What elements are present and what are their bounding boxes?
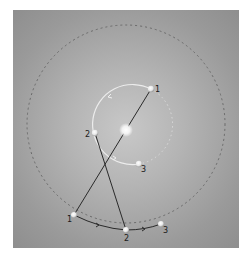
sightline-1: [74, 89, 151, 215]
inner-label-3: 3: [141, 165, 146, 174]
arrow-icon: [108, 94, 112, 98]
center-body: [119, 123, 133, 137]
inner-label-1: 1: [155, 85, 160, 94]
outer-label-3: 3: [163, 226, 168, 235]
orbit-diagram: 1 2 3 1 2 3: [0, 0, 252, 263]
arrow-icon: [113, 156, 116, 160]
outer-point-2: [123, 227, 129, 233]
outer-label-1: 1: [67, 215, 72, 224]
inner-label-2: 2: [85, 130, 90, 139]
outer-label-2: 2: [124, 234, 129, 243]
inner-point-1: [148, 86, 154, 92]
outer-trajectory: [74, 215, 161, 230]
inner-point-2: [92, 130, 98, 136]
sightline-2: [95, 133, 126, 230]
